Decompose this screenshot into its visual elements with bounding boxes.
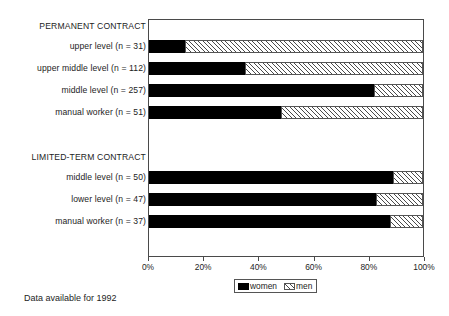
bar-segment-men: [393, 171, 423, 184]
bar-segment-men: [245, 62, 423, 75]
x-axis-tick-label: 100%: [413, 262, 434, 272]
x-axis-tick-label: 40%: [250, 262, 267, 272]
legend-swatch-women-icon: [238, 283, 249, 290]
bar-segment-women: [149, 40, 185, 53]
x-axis-tick: [203, 257, 204, 261]
bar-segment-men: [390, 215, 423, 228]
bar-segment-women: [149, 62, 245, 75]
row-label-manual-worker-ltd: manual worker (n = 37): [55, 216, 146, 226]
x-axis-tick: [369, 257, 370, 261]
bar-segment-women: [149, 106, 281, 119]
row-label-lower-level-ltd: lower level (n = 47): [71, 194, 146, 204]
legend-label-men: men: [296, 281, 312, 291]
bar-middle-level-permanent: [149, 84, 423, 97]
bar-segment-men: [374, 84, 423, 97]
x-axis-tick-label: 60%: [305, 262, 322, 272]
row-label-manual-worker-perm: manual worker (n = 51): [55, 107, 146, 117]
x-axis-tick-label: 0%: [142, 262, 154, 272]
bar-segment-women: [149, 215, 390, 228]
row-label-upper-middle-level: upper middle level (n = 112): [37, 63, 146, 73]
legend-entry-men: men: [284, 281, 312, 291]
group-heading-permanent-contract: PERMANENT CONTRACT: [39, 21, 146, 31]
bar-segment-women: [149, 193, 376, 206]
x-axis-tick: [258, 257, 259, 261]
bar-segment-women: [149, 171, 393, 184]
x-axis-tick: [148, 257, 149, 261]
bar-segment-men: [376, 193, 423, 206]
row-label-middle-level-ltd: middle level (n = 50): [66, 172, 146, 182]
bars-container: [149, 20, 423, 256]
x-axis-tick-label: 80%: [360, 262, 377, 272]
group-heading-limited-term-contract: LIMITED-TERM CONTRACT: [32, 152, 146, 162]
x-axis-tick-label: 20%: [195, 262, 212, 272]
bar-upper-level: [149, 40, 423, 53]
bar-segment-women: [149, 84, 374, 97]
bar-segment-men: [281, 106, 423, 119]
bar-lower-level-limited: [149, 193, 423, 206]
bar-manual-worker-permanent: [149, 106, 423, 119]
plot-area: [148, 19, 424, 257]
x-axis-tick: [314, 257, 315, 261]
bar-upper-middle-level: [149, 62, 423, 75]
legend-label-women: women: [250, 281, 277, 291]
bar-segment-men: [185, 40, 423, 53]
row-label-middle-level-perm: middle level (n = 257): [61, 85, 146, 95]
bar-middle-level-limited: [149, 171, 423, 184]
bar-manual-worker-limited: [149, 215, 423, 228]
chart-legend: women men: [234, 279, 317, 293]
chart-footnote: Data available for 1992: [24, 293, 117, 304]
x-axis-tick: [424, 257, 425, 261]
chart-figure: PERMANENT CONTRACT LIMITED-TERM CONTRACT…: [0, 0, 449, 316]
legend-swatch-men-icon: [284, 283, 295, 290]
legend-entry-women: women: [238, 281, 277, 291]
row-label-upper-level: upper level (n = 31): [70, 41, 146, 51]
